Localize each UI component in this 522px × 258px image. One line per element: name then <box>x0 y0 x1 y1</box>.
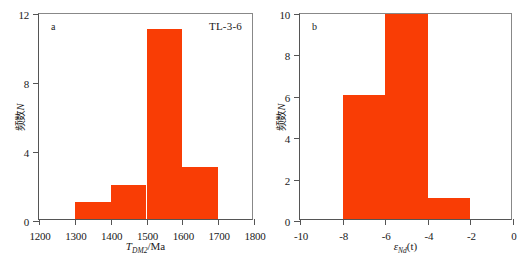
ytick-a-4: 4 <box>33 152 39 153</box>
xtick-label-a-1200: 1200 <box>29 231 50 242</box>
x-axis-title-b-sub: Nd <box>398 246 407 255</box>
ytick-b-6: 6 <box>294 97 300 98</box>
y-axis-title-a: 频数N <box>12 103 27 130</box>
xtick-a-1500: 1500 <box>147 219 148 225</box>
xtick-b-neg6: -6 <box>385 219 386 225</box>
xtick-label-b-neg6: -6 <box>382 231 391 242</box>
bar-neg8-neg6 <box>343 95 386 219</box>
xtick-a-1300: 1300 <box>75 219 76 225</box>
xtick-label-b-neg4: -4 <box>424 231 433 242</box>
panel-a: a TL-3-6 0 4 8 12 <box>0 0 261 258</box>
ytick-label-a-0: 0 <box>24 217 29 228</box>
ytick-label-b-2: 2 <box>285 175 290 186</box>
xtick-a-1600: 1600 <box>182 219 183 225</box>
xtick-label-a-1600: 1600 <box>173 231 194 242</box>
xtick-a-1400: 1400 <box>111 219 112 225</box>
x-axis-title-a: TDM2/Ma <box>126 240 165 255</box>
bar-1500-1600 <box>147 29 183 219</box>
bar-group-b <box>300 14 511 219</box>
x-axis-title-b-unit: (t) <box>407 240 417 252</box>
bar-group-a <box>39 14 252 219</box>
ytick-b-8: 8 <box>294 55 300 56</box>
xtick-label-b-neg2: -2 <box>467 231 476 242</box>
panel-b: b 0 2 4 6 8 10 <box>261 0 522 258</box>
xtick-b-0: 0 <box>513 219 514 225</box>
ytick-label-b-4: 4 <box>285 134 290 145</box>
bar-neg6-neg4 <box>385 14 428 219</box>
x-axis-title-b: εNd(t) <box>394 240 418 255</box>
ytick-label-b-10: 10 <box>279 10 290 21</box>
plot-area-b: b 0 2 4 6 8 10 <box>299 13 512 220</box>
ytick-a-8: 8 <box>33 83 39 84</box>
plot-area-a: a TL-3-6 0 4 8 12 <box>38 13 253 220</box>
y-axis-title-a-cn: 频数 <box>14 110 26 130</box>
xtick-b-neg8: -8 <box>343 219 344 225</box>
xtick-b-neg10: -10 <box>300 219 301 225</box>
ytick-label-a-8: 8 <box>24 79 29 90</box>
ytick-label-b-6: 6 <box>285 92 290 103</box>
xtick-a-1800: 1800 <box>254 219 255 225</box>
x-axis-title-a-sub: DM2 <box>132 246 147 255</box>
bar-1300-1400 <box>75 202 111 219</box>
xtick-a-1200: 1200 <box>39 219 40 225</box>
xtick-label-a-1300: 1300 <box>65 231 86 242</box>
xtick-b-neg2: -2 <box>470 219 471 225</box>
ytick-label-b-0: 0 <box>285 217 290 228</box>
xtick-label-b-0: 0 <box>511 231 516 242</box>
ytick-label-b-8: 8 <box>285 51 290 62</box>
ytick-label-a-4: 4 <box>24 148 29 159</box>
bar-neg4-neg2 <box>428 198 471 219</box>
ytick-label-a-12: 12 <box>18 10 29 21</box>
y-axis-title-a-var: N <box>15 103 26 110</box>
xtick-label-a-1700: 1700 <box>209 231 230 242</box>
y-axis-title-b: 频数N <box>273 103 288 130</box>
xtick-label-a-1400: 1400 <box>101 231 122 242</box>
x-axis-title-a-unit: /Ma <box>147 240 165 252</box>
y-axis-title-b-cn: 频数 <box>275 110 287 130</box>
xtick-label-b-neg10: -10 <box>294 231 308 242</box>
figure-container: a TL-3-6 0 4 8 12 <box>0 0 522 258</box>
xtick-a-1700: 1700 <box>218 219 219 225</box>
bar-1600-1700 <box>182 167 218 219</box>
xtick-b-neg4: -4 <box>428 219 429 225</box>
bar-1400-1500 <box>111 185 147 220</box>
ytick-b-2: 2 <box>294 180 300 181</box>
ytick-b-10: 10 <box>294 14 300 15</box>
ytick-a-12: 12 <box>33 14 39 15</box>
ytick-b-4: 4 <box>294 138 300 139</box>
xtick-label-b-neg8: -8 <box>339 231 348 242</box>
y-axis-title-b-var: N <box>276 103 287 110</box>
